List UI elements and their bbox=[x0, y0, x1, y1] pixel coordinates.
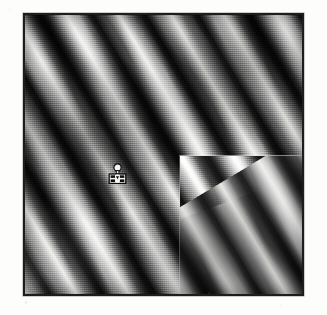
pin-marker-icon bbox=[108, 163, 127, 187]
figure-image-frame bbox=[23, 13, 304, 296]
inset-fringe-band-layer-secondary bbox=[179, 155, 257, 271]
inset-subregion bbox=[179, 155, 302, 294]
page-root bbox=[0, 0, 327, 315]
